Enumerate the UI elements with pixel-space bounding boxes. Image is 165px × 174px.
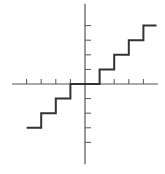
plot-area <box>0 0 165 174</box>
step-curve <box>27 26 157 128</box>
step-function-diagram <box>0 0 165 174</box>
step-line <box>27 26 157 128</box>
